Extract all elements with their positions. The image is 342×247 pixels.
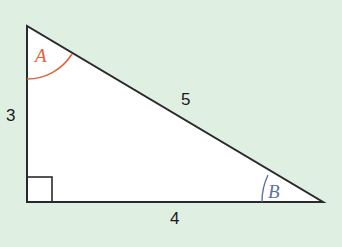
side-hypotenuse-label: 5 [181, 90, 190, 110]
angle-b-label: B [268, 181, 280, 203]
triangle-shape [27, 26, 323, 202]
side-vertical-label: 3 [6, 106, 15, 126]
side-horizontal-label: 4 [170, 209, 179, 229]
triangle-diagram: A B 3 5 4 [0, 0, 342, 247]
angle-a-label: A [35, 45, 47, 67]
